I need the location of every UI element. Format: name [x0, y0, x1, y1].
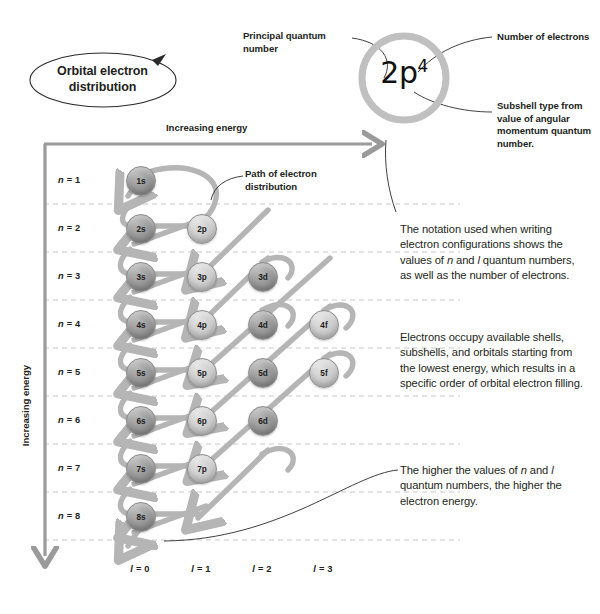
subshell-label-l3: l = 3 — [301, 564, 345, 574]
callout-subshell-type: Subshell type from value of angular mome… — [497, 100, 595, 150]
orbital-label: 5f — [320, 369, 327, 378]
orbital-7p[interactable]: 7p — [187, 454, 217, 484]
orbital-7s[interactable]: 7s — [126, 454, 156, 484]
shell-label-n2: n = 2 — [58, 223, 104, 233]
axis-lines — [44, 144, 372, 556]
paragraph-notation: The notation used when writing electron … — [400, 222, 582, 284]
orbital-label: 7p — [197, 465, 207, 474]
shell-label-n8: n = 8 — [58, 511, 104, 521]
leader-notation-to-circle — [385, 140, 396, 212]
shell-label-n1: n = 1 — [58, 175, 104, 185]
shell-label-n4: n = 4 — [58, 319, 104, 329]
paragraph-occupy: Electrons occupy available shells, subsh… — [400, 330, 588, 392]
orbital-5f[interactable]: 5f — [309, 358, 339, 388]
orbital-4p[interactable]: 4p — [187, 310, 217, 340]
orbital-label: 6d — [258, 417, 268, 426]
subshell-label-l2: l = 2 — [240, 564, 284, 574]
orbital-label: 5s — [136, 369, 145, 378]
orbital-4s[interactable]: 4s — [126, 310, 156, 340]
electron-configuration-notation: 2p4 — [358, 56, 450, 90]
subshell-label-l1: l = 1 — [179, 564, 223, 574]
orbital-label: 3p — [197, 273, 207, 282]
title-callout-line2: distribution — [30, 79, 175, 95]
orbital-label: 1s — [136, 177, 145, 186]
loop-6d — [262, 449, 293, 470]
orbital-2s[interactable]: 2s — [126, 214, 156, 244]
orbital-label: 5d — [258, 369, 268, 378]
orbital-label: 7s — [136, 465, 145, 474]
orbital-label: 6p — [197, 417, 207, 426]
paragraph-higher: The higher the values of n and l quantum… — [400, 463, 582, 509]
orbital-1s[interactable]: 1s — [126, 166, 156, 196]
orbital-6p[interactable]: 6p — [187, 406, 217, 436]
leader-subshell — [414, 92, 492, 112]
orbital-6d[interactable]: 6d — [248, 406, 278, 436]
vertical-axis-label: Increasing energy — [20, 351, 31, 461]
notation-base: 2p — [380, 55, 417, 90]
orbital-label: 2s — [136, 225, 145, 234]
callout-path-of-electron-distribution: Path of electron distribution — [245, 168, 349, 193]
orbital-label: 4f — [320, 321, 327, 330]
subshell-label-l0: l = 0 — [118, 564, 162, 574]
callout-principal-quantum-number: Principal quantum number — [243, 30, 353, 55]
orbital-2p[interactable]: 2p — [187, 214, 217, 244]
diagonal-return-loops — [262, 257, 353, 470]
orbital-label: 3d — [258, 273, 268, 282]
shell-label-n7: n = 7 — [58, 463, 104, 473]
shell-label-n6: n = 6 — [58, 415, 104, 425]
diagram-canvas: Orbital electron distribution 2p4 Princi… — [0, 0, 600, 614]
orbital-8s[interactable]: 8s — [126, 502, 156, 532]
orbital-5s[interactable]: 5s — [126, 358, 156, 388]
title-callout-line1: Orbital electron — [30, 63, 175, 79]
shell-label-n3: n = 3 — [58, 271, 104, 281]
orbital-label: 4p — [197, 321, 207, 330]
orbital-5p[interactable]: 5p — [187, 358, 217, 388]
orbital-label: 5p — [197, 369, 207, 378]
orbital-label: 8s — [136, 513, 145, 522]
orbital-label: 4s — [136, 321, 145, 330]
orbital-3d[interactable]: 3d — [248, 262, 278, 292]
orbital-4d[interactable]: 4d — [248, 310, 278, 340]
orbital-5d[interactable]: 5d — [248, 358, 278, 388]
shell-label-n5: n = 5 — [58, 367, 104, 377]
callout-number-of-electrons: Number of electrons — [497, 31, 600, 44]
orbital-label: 4d — [258, 321, 268, 330]
notation-superscript: 4 — [417, 56, 427, 76]
orbital-3s[interactable]: 3s — [126, 262, 156, 292]
orbital-label: 3s — [136, 273, 145, 282]
orbital-label: 2p — [197, 225, 207, 234]
horizontal-axis-label: Increasing energy — [166, 122, 247, 133]
title-callout: Orbital electron distribution — [30, 63, 175, 95]
orbital-3p[interactable]: 3p — [187, 262, 217, 292]
orbital-4f[interactable]: 4f — [309, 310, 339, 340]
orbital-6s[interactable]: 6s — [126, 406, 156, 436]
orbital-label: 6s — [136, 417, 145, 426]
